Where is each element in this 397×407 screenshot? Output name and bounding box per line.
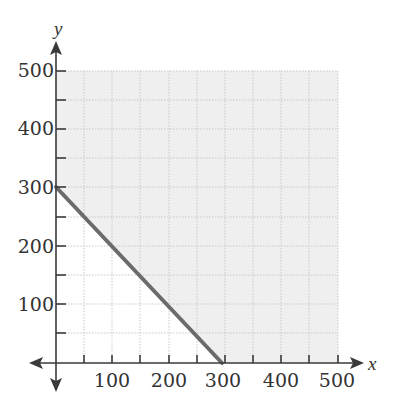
y-axis-label: y bbox=[52, 18, 63, 39]
y-tick-label: 200 bbox=[18, 235, 54, 257]
x-tick-label: 400 bbox=[263, 369, 299, 391]
x-axis-label: x bbox=[367, 353, 377, 374]
x-tick-label: 100 bbox=[94, 369, 130, 391]
y-tick-label: 100 bbox=[18, 293, 54, 315]
x-tick-labels: 100 200 300 400 500 bbox=[94, 369, 355, 391]
chart: 100 200 300 400 500 100 200 300 400 500 … bbox=[0, 0, 397, 407]
y-tick-label: 500 bbox=[18, 59, 54, 81]
x-tick-label: 300 bbox=[205, 369, 241, 391]
x-tick-label: 500 bbox=[319, 369, 355, 391]
y-tick-label: 400 bbox=[18, 117, 54, 139]
y-tick-label: 300 bbox=[18, 176, 54, 198]
x-tick-label: 200 bbox=[151, 369, 187, 391]
y-tick-labels: 100 200 300 400 500 bbox=[18, 59, 54, 315]
